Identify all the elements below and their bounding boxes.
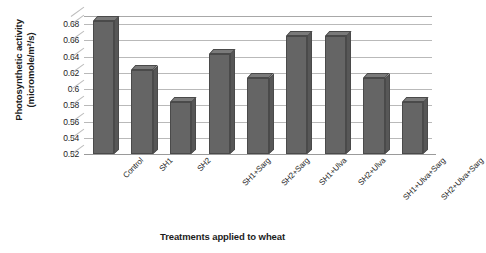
bar-side-face	[346, 32, 351, 154]
bar	[402, 102, 424, 154]
x-tick-label: SH1	[157, 156, 174, 173]
bar-side-face	[153, 66, 158, 154]
bar-front-face	[131, 70, 153, 154]
bar-top-face	[363, 73, 389, 78]
bar-top-face	[209, 49, 235, 54]
bar	[325, 36, 347, 154]
bar-front-face	[363, 78, 385, 154]
bar-top-face	[325, 31, 351, 36]
bar-series	[84, 16, 432, 154]
bar-top-face	[402, 97, 428, 102]
bar-front-face	[209, 54, 231, 154]
bar-front-face	[402, 102, 424, 154]
bar-side-face	[269, 73, 274, 154]
bar	[93, 21, 115, 154]
bar-side-face	[114, 16, 119, 154]
bar	[286, 36, 308, 154]
x-tick-label: SH1+Ulva	[318, 156, 349, 187]
y-axis-title: Photosynthetic activity (micromole/m²/s)	[13, 0, 53, 150]
y-axis-title-line-2: (micromole/m²/s)	[25, 0, 37, 150]
bar-top-face	[93, 16, 119, 21]
bar-side-face	[423, 98, 428, 154]
bar	[247, 78, 269, 154]
x-axis-title: Treatments applied to wheat	[0, 231, 445, 242]
bar-front-face	[170, 102, 192, 154]
bar-side-face	[191, 98, 196, 154]
x-tick-label: Control	[121, 156, 145, 180]
bar-front-face	[325, 36, 347, 154]
bar-top-face	[170, 97, 196, 102]
plot-area	[84, 16, 432, 154]
x-tick-label: SH2+Ulva	[356, 156, 387, 187]
bar	[209, 54, 231, 154]
bar-top-face	[247, 73, 273, 78]
x-tick-label: SH2+Ulva+Sarg	[440, 156, 486, 202]
x-axis-tick-labels: ControlSH1SH2SH1+SargSH2+SargSH1+UlvaSH2…	[84, 156, 432, 222]
bar-top-face	[286, 31, 312, 36]
bar-side-face	[307, 32, 312, 154]
bar	[131, 70, 153, 154]
bar-side-face	[385, 73, 390, 154]
x-tick-label: SH2+Sarg	[279, 156, 311, 188]
bar-front-face	[286, 36, 308, 154]
x-tick-label: SH2	[196, 156, 213, 173]
bar	[170, 102, 192, 154]
bar	[363, 78, 385, 154]
bar-front-face	[93, 21, 115, 154]
x-tick-label: SH1+Sarg	[241, 156, 273, 188]
bar-side-face	[230, 50, 235, 154]
x-axis-line	[84, 154, 436, 155]
bar-front-face	[247, 78, 269, 154]
y-axis-title-line-1: Photosynthetic activity	[13, 0, 25, 150]
